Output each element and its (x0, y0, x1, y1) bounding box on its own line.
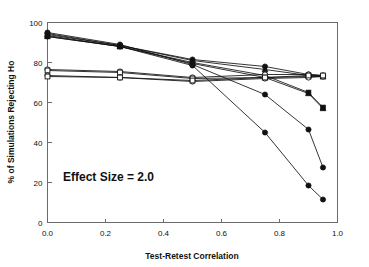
x-tick-label: 0.6 (216, 229, 228, 238)
data-point-series-10 (190, 78, 195, 83)
y-tick-label: 0 (38, 219, 43, 228)
y-axis-tick-labels: 020406080100 (29, 19, 43, 228)
x-tick-label: 0.4 (158, 229, 170, 238)
data-point-series-5 (320, 165, 325, 170)
x-tick-label: 1.0 (332, 229, 344, 238)
data-point-series-6 (320, 197, 325, 202)
data-point-series-6 (306, 183, 311, 188)
data-point-series-6 (117, 44, 122, 49)
series-line-series-4 (48, 37, 324, 109)
x-axis-tick-labels: 0.00.20.40.60.81.0 (42, 229, 344, 238)
data-point-series-8 (45, 68, 50, 73)
line-chart: 020406080100 0.00.20.40.60.81.0 Test-Ret… (0, 0, 369, 267)
data-point-series-5 (262, 92, 267, 97)
y-tick-label: 100 (29, 19, 43, 28)
data-point-series-10 (306, 73, 311, 78)
data-point-series-6 (45, 34, 50, 39)
data-point-series-10 (118, 75, 123, 80)
x-tick-label: 0.8 (274, 229, 286, 238)
figure-container: 020406080100 0.00.20.40.60.81.0 Test-Ret… (0, 0, 369, 267)
y-tick-label: 20 (34, 179, 43, 188)
data-point-series-8 (118, 70, 123, 75)
series-line-series-5 (48, 33, 324, 168)
y-axis-ticks (48, 23, 52, 223)
x-tick-label: 0.2 (100, 229, 112, 238)
y-tick-label: 40 (34, 139, 43, 148)
series-line-series-1 (48, 34, 324, 76)
x-tick-label: 0.0 (42, 229, 54, 238)
data-point-series-5 (306, 127, 311, 132)
series-line-series-2 (48, 35, 324, 77)
data-point-series-6 (262, 130, 267, 135)
data-point-series-10 (45, 74, 50, 79)
x-axis-ticks (48, 219, 338, 223)
data-point-series-10 (263, 75, 268, 80)
y-axis-title: % of Simulations Rejecting Ho (6, 61, 16, 184)
data-point-series-6 (190, 63, 195, 68)
effect-size-annotation: Effect Size = 2.0 (63, 170, 154, 184)
data-point-series-10 (321, 73, 326, 78)
x-axis-title: Test-Retest Correlation (145, 251, 238, 261)
y-tick-label: 80 (34, 59, 43, 68)
plot-frame (48, 23, 338, 223)
y-tick-label: 60 (34, 99, 43, 108)
